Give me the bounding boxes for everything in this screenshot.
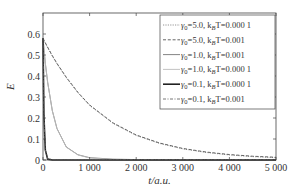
y-tick-label: 0 [35, 155, 40, 166]
y-tick-label: 0.3 [28, 92, 41, 103]
x-axis-label: t/a.u. [148, 174, 171, 186]
x-tick-label: 3 000 [172, 162, 195, 173]
y-tick-label: 0.2 [28, 113, 41, 124]
y-tick-label: 0.5 [28, 50, 41, 61]
x-tick-label: 2 000 [125, 162, 148, 173]
x-tick-label: 1 000 [78, 162, 101, 173]
y-tick-label: 0.6 [28, 29, 41, 40]
y-axis-label: E [4, 83, 16, 91]
legend: γ0=5.0, kBT=0.000 1γ0=5.0, kBT=0.001γ0=1… [160, 15, 275, 109]
legend-label: γ0=0.1, kBT=0.000 1 [181, 79, 251, 90]
y-tick-label: 0.1 [28, 134, 41, 145]
x-tick-label: 5 000 [265, 162, 288, 173]
legend-label: γ0=1.0, kBT=0.000 1 [181, 64, 251, 75]
legend-label: γ0=5.0, kBT=0.000 1 [181, 20, 251, 31]
x-tick-label: 0 [41, 162, 46, 173]
x-tick-label: 4 000 [218, 162, 241, 173]
y-tick-label: 0.4 [28, 71, 41, 82]
decay-chart: 01 0002 0003 0004 0005 000 00.10.20.30.4… [0, 0, 301, 193]
